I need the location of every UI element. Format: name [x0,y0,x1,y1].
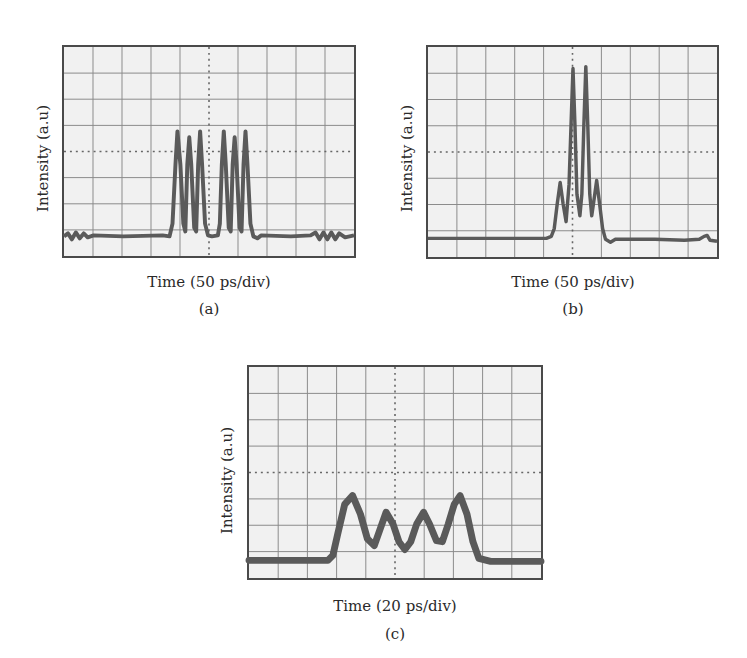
panel-label-c: (c) [375,625,415,643]
panel-label-a: (a) [189,300,229,318]
waveform-a [64,47,354,256]
y-axis-label-b: Intensity (a.u) [398,105,416,212]
y-axis-label-a: Intensity (a.u) [34,105,52,212]
waveform-b [428,47,717,257]
panel-label-b: (b) [553,300,593,318]
oscilloscope-plot-a [62,45,356,258]
x-axis-label-c: Time (20 ps/div) [295,597,495,615]
oscilloscope-plot-c [247,365,543,580]
x-axis-label-b: Time (50 ps/div) [473,273,673,291]
grid-c [249,367,541,578]
oscilloscope-plot-b [426,45,719,259]
x-axis-label-a: Time (50 ps/div) [109,273,309,291]
waveform-c [249,367,541,578]
y-axis-label-c: Intensity (a.u) [218,427,236,534]
